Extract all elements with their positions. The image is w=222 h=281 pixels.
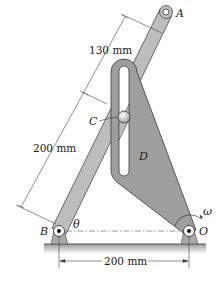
- label-omega: ω: [203, 205, 212, 218]
- pin-o: [184, 226, 195, 237]
- slider-c: [118, 111, 130, 123]
- pin-a: [163, 9, 169, 15]
- label-d: D: [138, 150, 148, 163]
- label-a: A: [175, 7, 184, 20]
- pin-b: [54, 226, 65, 237]
- dim-130: 130 mm: [89, 44, 132, 56]
- label-o: O: [199, 225, 208, 238]
- dim-200-base: 200 mm: [104, 255, 147, 267]
- dim-200-inclined: 200 mm: [33, 142, 76, 154]
- ground: [44, 244, 206, 254]
- label-b: B: [39, 225, 48, 238]
- label-c: C: [89, 115, 98, 128]
- plate-d: [111, 59, 196, 235]
- label-theta: θ: [73, 218, 80, 231]
- mechanism-diagram: A C D B O θ ω 130 mm 200 mm 200 mm: [0, 0, 222, 281]
